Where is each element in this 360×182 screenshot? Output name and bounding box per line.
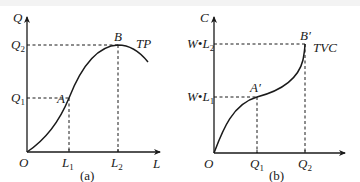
tvc-curve — [214, 44, 305, 153]
panel-b-wl1-label: W•L1 — [187, 89, 214, 106]
panel-b-total-variable-cost: C O W•L2 W•L1 Q1 Q2 A′ B′ TVC (b) — [187, 10, 345, 182]
point-a-label: A — [56, 91, 65, 106]
panel-a-q1-label: Q1 — [11, 90, 25, 107]
point-a-prime-label: A′ — [249, 80, 261, 95]
panel-b-y-axis-label: C — [200, 10, 209, 25]
panel-a-q2-label: Q2 — [11, 37, 25, 54]
panel-b-caption: (b) — [269, 168, 284, 182]
panel-b-origin-label: O — [204, 156, 214, 171]
panel-b-q2-label: Q2 — [298, 156, 312, 173]
panel-a-total-product: Q L O Q2 Q1 L1 L2 A B TP (a) — [11, 10, 160, 182]
panel-a-origin-label: O — [19, 155, 29, 170]
cropped-header-strip — [0, 0, 360, 6]
point-b-prime-label: B′ — [300, 28, 311, 43]
tvc-curve-label: TVC — [313, 40, 337, 55]
production-cost-diagram: Q L O Q2 Q1 L1 L2 A B TP (a) C O W•L2 W•… — [0, 0, 360, 182]
tp-curve-label: TP — [136, 36, 151, 51]
panel-a-caption: (a) — [80, 168, 94, 182]
panel-a-y-axis-label: Q — [13, 10, 23, 25]
panel-b-wl2-label: W•L2 — [187, 36, 214, 53]
point-b-label: B — [114, 29, 122, 44]
panel-a-x-axis-label: L — [152, 156, 160, 171]
panel-b-q1-label: Q1 — [250, 156, 264, 173]
panel-a-l1-label: L1 — [61, 155, 74, 172]
panel-a-l2-label: L2 — [110, 155, 123, 172]
